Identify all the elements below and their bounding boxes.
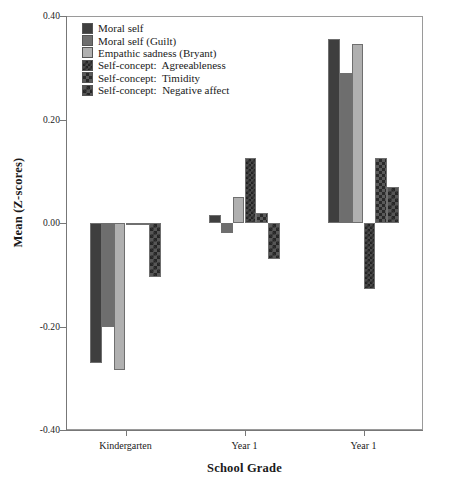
y-tick <box>60 223 66 224</box>
chart-figure: 0.400.200.00-0.20-0.40 Mean (Z-scores) K… <box>0 0 449 493</box>
y-tick <box>60 16 66 17</box>
legend-label: Moral self <box>98 22 144 34</box>
x-tick <box>126 430 127 436</box>
bar <box>126 223 138 225</box>
y-tick <box>60 120 66 121</box>
x-tick-label: Year 1 <box>304 440 424 451</box>
bar <box>328 39 340 223</box>
y-tick <box>60 327 66 328</box>
bar <box>245 158 257 223</box>
x-tick <box>364 430 365 436</box>
legend-label: Empathic sadness (Bryant) <box>98 47 217 59</box>
legend-label: Moral self (Guilt) <box>98 35 176 47</box>
bar <box>102 223 114 327</box>
bar <box>209 215 221 223</box>
legend-swatch-icon <box>82 85 93 96</box>
bar <box>375 158 387 223</box>
bar <box>233 197 245 223</box>
legend-item: Self-concept: Timidity <box>82 72 229 84</box>
x-tick-label: Kindergarten <box>66 440 186 451</box>
bar <box>364 223 376 289</box>
legend-label: Self-concept: Timidity <box>98 72 200 84</box>
x-tick-label: Year 1 <box>185 440 305 451</box>
y-tick-label: 0.20 <box>20 115 60 125</box>
y-tick <box>60 430 66 431</box>
legend-item: Self-concept: Negative affect <box>82 84 229 96</box>
legend-swatch-icon <box>82 23 93 34</box>
legend-swatch-icon <box>82 60 93 71</box>
legend-item: Moral self <box>82 22 229 34</box>
legend-swatch-icon <box>82 35 93 46</box>
bar <box>387 187 399 223</box>
y-tick-label: 0.00 <box>20 218 60 228</box>
y-tick-label: -0.20 <box>20 322 60 332</box>
legend-item: Empathic sadness (Bryant) <box>82 47 229 59</box>
bar <box>114 223 126 370</box>
y-tick-label: -0.40 <box>20 425 60 435</box>
legend-swatch-icon <box>82 47 93 58</box>
legend-label: Self-concept: Negative affect <box>98 84 229 96</box>
y-axis-title: Mean (Z-scores) <box>11 123 26 283</box>
bar <box>340 73 352 223</box>
legend-item: Self-concept: Agreeableness <box>82 59 229 71</box>
bar <box>352 44 364 223</box>
y-tick-label: 0.40 <box>20 11 60 21</box>
legend-label: Self-concept: Agreeableness <box>98 59 226 71</box>
bar <box>137 223 149 225</box>
bar <box>221 223 233 233</box>
bar <box>90 223 102 363</box>
x-tick <box>245 430 246 436</box>
bar <box>268 223 280 259</box>
chart-legend: Moral selfMoral self (Guilt)Empathic sad… <box>82 22 229 96</box>
x-axis-title: School Grade <box>66 461 423 476</box>
bar <box>149 223 161 277</box>
y-axis-line <box>66 16 67 430</box>
legend-swatch-icon <box>82 72 93 83</box>
bar <box>256 213 268 223</box>
legend-item: Moral self (Guilt) <box>82 34 229 46</box>
